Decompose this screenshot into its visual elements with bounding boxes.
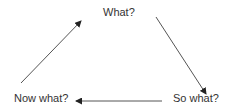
arrow-now-what-to-what [21, 21, 81, 83]
node-what-label: What? [103, 6, 135, 18]
arrow-what-to-so-what [156, 17, 206, 94]
node-so-what-label: So what? [173, 92, 219, 104]
reflection-cycle-diagram: What? So what? Now what? [0, 0, 231, 110]
node-now-what-label: Now what? [14, 92, 68, 104]
